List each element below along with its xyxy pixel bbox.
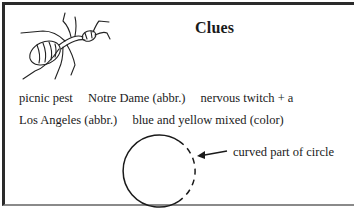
circle-diagram-icon	[117, 127, 217, 215]
clue-notre-dame: Notre Dame (abbr.)	[88, 91, 186, 105]
arrow-left-icon	[193, 145, 237, 163]
clues-row-2: Los Angeles (abbr.) blue and yellow mixe…	[19, 113, 296, 128]
circle-annotation: curved part of circle	[233, 145, 334, 160]
clue-nervous-twitch: nervous twitch + a	[201, 91, 294, 105]
clue-blue-yellow: blue and yellow mixed (color)	[132, 113, 283, 127]
clue-los-angeles: Los Angeles (abbr.)	[19, 113, 117, 127]
ant-icon	[15, 9, 111, 81]
page-title: Clues	[195, 19, 234, 37]
clues-row-1: picnic pest Notre Dame (abbr.) nervous t…	[19, 91, 305, 106]
clues-card: Clues picnic pest Notre Dame (abbr.) ner…	[2, 2, 354, 206]
clue-picnic-pest: picnic pest	[19, 91, 73, 105]
